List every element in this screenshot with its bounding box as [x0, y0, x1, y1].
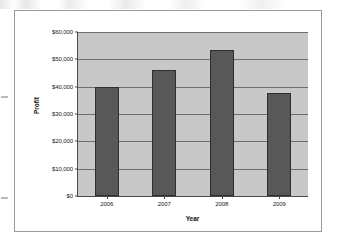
x-axis-tick — [222, 196, 223, 199]
bar — [152, 70, 176, 196]
scan-artifact-top — [0, 0, 337, 9]
bar-category-slot: 2007 — [136, 32, 194, 196]
x-axis-tick — [164, 196, 165, 199]
x-axis-tick-label: 2008 — [215, 201, 228, 207]
y-axis-tick-label: $50,000 — [52, 56, 73, 62]
chart-frame: Profit $0$10,000$20,000$30,000$40,000$50… — [14, 10, 322, 232]
y-axis-tick-label: $20,000 — [52, 138, 73, 144]
y-axis-tick-label: $0 — [67, 193, 73, 199]
y-axis-tick-label: $10,000 — [52, 166, 73, 172]
scan-artifact-left-mark — [1, 96, 8, 98]
bar-category-slot: 2006 — [78, 32, 136, 196]
bar-category-slot: 2009 — [251, 32, 309, 196]
scan-artifact-left-mark — [1, 197, 8, 199]
bar-category-slot: 2008 — [193, 32, 251, 196]
x-axis-tick-label: 2009 — [273, 201, 286, 207]
x-axis-tick — [107, 196, 108, 199]
y-axis-tick-label: $60,000 — [52, 29, 73, 35]
x-axis-tick-label: 2007 — [158, 201, 171, 207]
bar-series: 2006200720082009 — [78, 32, 308, 196]
bar — [210, 50, 234, 196]
y-axis-title: Profit — [33, 97, 40, 114]
x-axis-tick — [279, 196, 280, 199]
bar — [267, 93, 291, 196]
y-axis-tick-label: $30,000 — [52, 111, 73, 117]
y-axis-tick-label: $40,000 — [52, 84, 73, 90]
bar — [95, 87, 119, 196]
bar-chart: Profit $0$10,000$20,000$30,000$40,000$50… — [15, 11, 321, 231]
plot-area: $0$10,000$20,000$30,000$40,000$50,000$60… — [77, 32, 308, 197]
x-axis-title: Year — [77, 215, 308, 222]
x-axis-tick-label: 2006 — [100, 201, 113, 207]
